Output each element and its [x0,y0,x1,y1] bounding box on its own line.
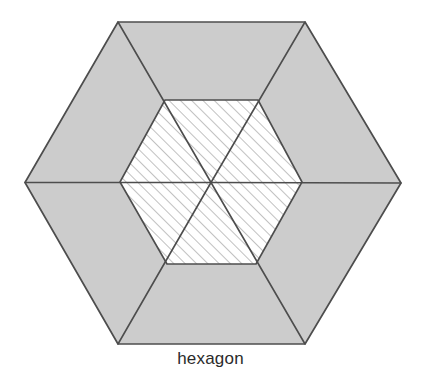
figure-caption: hexagon [0,349,421,369]
spoke-to-right [211,183,401,184]
hexagon-figure: hexagon [0,0,421,378]
hexagon-diagram [0,0,421,378]
